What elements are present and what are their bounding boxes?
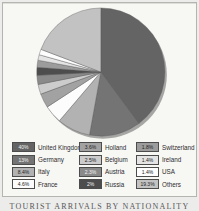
legend-label: Belgium [105, 156, 128, 163]
legend-swatch: 8.4% [12, 167, 35, 177]
legend-column: 1.8%Switzerland1.4%Ireland1.4%USA19.3%Ot… [136, 141, 194, 191]
legend-item: 3.6%Holland [79, 141, 136, 153]
chart-frame: 40%United Kingdom13%Germany8.4%Italy4.6%… [2, 2, 197, 197]
legend-swatch: 13% [12, 155, 35, 165]
legend-swatch: 3.6% [79, 142, 102, 152]
legend-item: 2.3%Austria [79, 166, 136, 178]
legend-item: 1.8%Switzerland [136, 141, 194, 153]
legend-swatch: 40% [12, 142, 35, 152]
legend-item: 8.4%Italy [12, 166, 79, 178]
legend-swatch: 2.3% [79, 167, 102, 177]
pie-chart-area [34, 6, 169, 142]
legend-label: Italy [38, 168, 50, 175]
legend-item: 4.6%France [12, 178, 79, 190]
legend-item: 2.5%Belgium [79, 153, 136, 165]
legend-item: 1.4%USA [136, 166, 194, 178]
legend-swatch: 19.3% [136, 179, 159, 189]
legend-label: Germany [38, 156, 64, 163]
legend-item: 13%Germany [12, 153, 79, 165]
legend-label: Austria [105, 168, 125, 175]
legend-label: Others [162, 181, 181, 188]
legend-item: 19.3%Others [136, 178, 194, 190]
legend: 40%United Kingdom13%Germany8.4%Italy4.6%… [12, 141, 194, 191]
legend-label: Ireland [162, 156, 181, 163]
legend-swatch: 1.8% [136, 142, 159, 152]
legend-swatch: 4.6% [12, 179, 35, 189]
legend-label: United Kingdom [38, 144, 83, 151]
legend-label: Switzerland [162, 144, 195, 151]
legend-label: Russia [105, 181, 124, 188]
legend-column: 40%United Kingdom13%Germany8.4%Italy4.6%… [12, 141, 79, 191]
pie-chart [34, 6, 169, 142]
legend-label: Holland [105, 144, 126, 151]
legend-swatch: 1.4% [136, 167, 159, 177]
chart-caption: TOURIST ARRIVALS BY NATIONALITY [0, 202, 199, 211]
legend-swatch: 2% [79, 179, 102, 189]
legend-item: 40%United Kingdom [12, 141, 79, 153]
legend-label: USA [162, 168, 175, 175]
legend-label: France [38, 181, 58, 188]
legend-column: 3.6%Holland2.5%Belgium2.3%Austria2%Russi… [79, 141, 136, 191]
legend-item: 1.4%Ireland [136, 153, 194, 165]
legend-swatch: 2.5% [79, 155, 102, 165]
legend-swatch: 1.4% [136, 155, 159, 165]
legend-item: 2%Russia [79, 178, 136, 190]
